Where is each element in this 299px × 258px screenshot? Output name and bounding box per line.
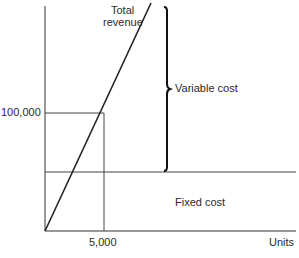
total-revenue-label-2: revenue <box>103 16 143 28</box>
x-axis-label: Units <box>269 236 294 248</box>
x-tick-label: 5,000 <box>89 236 117 248</box>
variable-cost-label: Variable cost <box>175 82 238 94</box>
y-tick-label: 100,000 <box>1 106 41 118</box>
variable-cost-brace <box>164 7 170 171</box>
breakeven-chart <box>0 0 299 258</box>
total-revenue-line <box>45 3 151 231</box>
fixed-cost-label: Fixed cost <box>175 196 225 208</box>
total-revenue-label-1: Total <box>111 4 134 16</box>
